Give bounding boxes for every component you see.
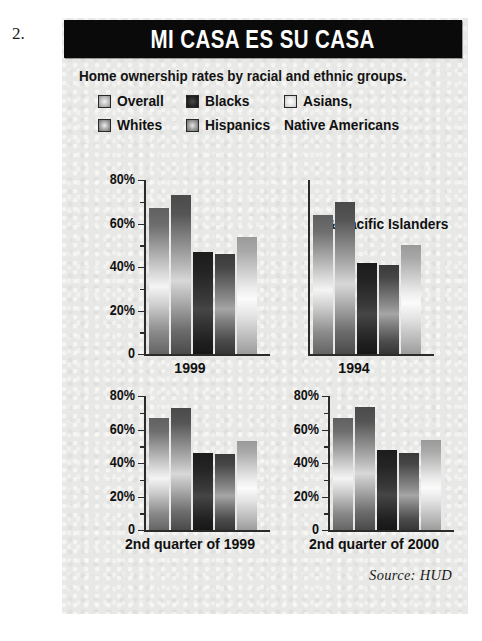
legend-item-asians-cont-1: Native Americans [284, 117, 405, 133]
y-tick-label: 40% [293, 454, 319, 470]
bar-group [149, 180, 259, 354]
y-tick-minor [324, 480, 328, 481]
legend-item-blacks: Blacks [186, 93, 284, 109]
legend-swatch-hispanics-icon [186, 119, 199, 132]
y-tick-label: 20% [109, 488, 135, 504]
legend-label-whites: Whites [117, 117, 162, 133]
bar-blacks [357, 263, 377, 354]
legend-label-native-americans: Native Americans [284, 117, 399, 133]
y-axis [144, 396, 146, 530]
y-tick-minor [140, 245, 144, 246]
x-axis [144, 530, 270, 532]
y-tick-label: 20% [293, 488, 319, 504]
y-tick-major [322, 530, 328, 531]
y-tick-label: 20% [109, 302, 135, 318]
bar-whites [335, 202, 355, 354]
y-tick-minor [140, 413, 144, 414]
bar-asians [237, 237, 257, 354]
y-tick-major [138, 463, 144, 464]
legend-row-2: Whites Hispanics Native Americans [98, 117, 470, 141]
x-axis [328, 530, 454, 532]
bar-asians [401, 245, 421, 354]
legend-label-asians: Asians, [303, 93, 352, 109]
y-tick-major [138, 497, 144, 498]
legend-item-hispanics: Hispanics [186, 117, 284, 133]
source-credit: Source: HUD [369, 567, 452, 584]
bar-asians [237, 441, 257, 530]
bar-overall [313, 215, 333, 354]
y-tick-label: 80% [109, 171, 135, 187]
y-tick-minor [140, 513, 144, 514]
y-tick-label: 80% [109, 387, 135, 403]
bar-hispanics [379, 265, 399, 354]
y-tick-minor [140, 202, 144, 203]
bar-blacks [193, 453, 213, 530]
legend-swatch-asians-icon [284, 95, 297, 108]
chart-1994: 1994 [274, 180, 434, 380]
bar-overall [333, 418, 353, 530]
y-tick-major [322, 497, 328, 498]
figure-subtitle: Home ownership rates by racial and ethni… [79, 68, 432, 84]
bar-blacks [193, 252, 213, 354]
y-tick-label: 60% [293, 421, 319, 437]
y-axis [328, 396, 330, 530]
chart-q2-2000: 80%60%40%20%02nd quarter of 2000 [294, 396, 454, 556]
y-tick-major [322, 430, 328, 431]
bar-overall [149, 208, 169, 354]
y-tick-minor [140, 480, 144, 481]
y-tick-major [138, 224, 144, 225]
title-banner: MI CASA ES SU CASA [64, 20, 462, 58]
y-tick-major [138, 430, 144, 431]
y-tick-label: 40% [109, 258, 135, 274]
bar-group [313, 180, 423, 354]
y-tick-label: 60% [109, 215, 135, 231]
legend-label-hispanics: Hispanics [205, 117, 270, 133]
legend: Overall Blacks Asians, Whites [98, 93, 470, 141]
bar-whites [355, 407, 375, 530]
y-tick-major [322, 463, 328, 464]
y-tick-major [138, 354, 144, 355]
y-tick-major [138, 311, 144, 312]
legend-item-whites: Whites [98, 117, 186, 133]
y-tick-minor [324, 446, 328, 447]
y-tick-minor [324, 413, 328, 414]
chart-1999: 80%60%40%20%01999 [110, 180, 270, 380]
y-tick-major [322, 396, 328, 397]
infographic-figure: MI CASA ES SU CASA Home ownership rates … [62, 18, 468, 614]
x-axis-label: 2nd quarter of 1999 [115, 535, 265, 552]
x-axis-label: 1994 [279, 359, 429, 376]
bar-group [149, 396, 259, 530]
y-tick-major [138, 267, 144, 268]
bar-group [333, 396, 443, 530]
bar-hispanics [399, 453, 419, 530]
bar-hispanics [215, 454, 235, 530]
list-number: 2. [12, 24, 25, 44]
y-tick-major [138, 396, 144, 397]
page-root: 2. MI CASA ES SU CASA Home ownership rat… [0, 0, 482, 641]
bar-blacks [377, 450, 397, 530]
x-axis [308, 354, 434, 356]
bar-whites [171, 195, 191, 354]
bar-hispanics [215, 254, 235, 354]
y-tick-major [138, 180, 144, 181]
bar-whites [171, 408, 191, 530]
bar-asians [421, 440, 441, 530]
y-tick-label: 40% [109, 454, 135, 470]
y-tick-minor [324, 513, 328, 514]
y-tick-minor [140, 332, 144, 333]
legend-row-1: Overall Blacks Asians, [98, 93, 470, 117]
y-tick-label: 60% [109, 421, 135, 437]
bar-overall [149, 418, 169, 530]
y-tick-minor [140, 446, 144, 447]
y-tick-major [138, 530, 144, 531]
chart-q2-1999: 80%60%40%20%02nd quarter of 1999 [110, 396, 270, 556]
x-axis-label: 2nd quarter of 2000 [299, 535, 449, 552]
legend-label-overall: Overall [117, 93, 164, 109]
x-axis-label: 1999 [115, 359, 265, 376]
legend-item-asians: Asians, [284, 93, 355, 109]
x-axis [144, 354, 270, 356]
legend-label-blacks: Blacks [205, 93, 249, 109]
y-tick-minor [140, 289, 144, 290]
y-axis [308, 180, 310, 354]
legend-item-overall: Overall [98, 93, 186, 109]
